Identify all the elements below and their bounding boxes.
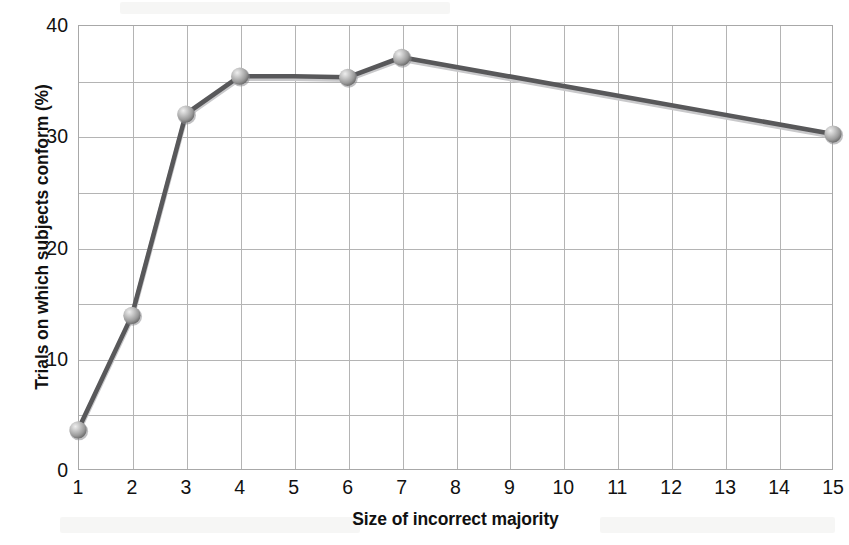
gridline-horizontal [79,304,832,305]
gridline-horizontal [79,249,832,250]
plot-area [78,25,833,470]
gridline-vertical [187,26,188,469]
scan-artifact [120,2,450,14]
gridline-horizontal [79,82,832,83]
gridline-horizontal [79,360,832,361]
gridline-vertical [780,26,781,469]
gridline-vertical [403,26,404,469]
x-axis-tick-label: 8 [434,476,478,499]
x-axis-tick-label: 4 [218,476,262,499]
x-axis-tick-label: 5 [272,476,316,499]
x-axis-tick-label: 14 [757,476,801,499]
gridline-horizontal [79,193,832,194]
gridline-vertical [672,26,673,469]
chart-figure: Trials on which subjects conform (%) 010… [0,0,849,545]
x-axis-tick-label: 7 [380,476,424,499]
x-axis-tick-label: 10 [541,476,585,499]
gridline-vertical [564,26,565,469]
gridline-vertical [457,26,458,469]
x-axis-tick-label: 2 [110,476,154,499]
x-axis-tick-label: 9 [487,476,531,499]
gridline-vertical [241,26,242,469]
gridline-vertical [133,26,134,469]
gridline-vertical [726,26,727,469]
x-axis-tick-label: 3 [164,476,208,499]
gridline-horizontal [79,415,832,416]
y-axis-tick-label: 30 [8,125,68,148]
x-axis-tick-label: 6 [326,476,370,499]
gridline-vertical [618,26,619,469]
x-axis-tick-label: 13 [703,476,747,499]
x-axis-tick-label: 1 [56,476,100,499]
y-axis-tick-label: 20 [8,236,68,259]
gridline-vertical [510,26,511,469]
x-axis-title: Size of incorrect majority [78,509,833,530]
x-axis-tick-label: 12 [649,476,693,499]
gridline-horizontal [79,137,832,138]
x-axis-tick-label: 11 [595,476,639,499]
y-axis-tick-label: 40 [8,14,68,37]
x-axis-tick-label: 15 [811,476,849,499]
y-axis-tick-label: 10 [8,347,68,370]
gridline-vertical [349,26,350,469]
gridline-vertical [295,26,296,469]
